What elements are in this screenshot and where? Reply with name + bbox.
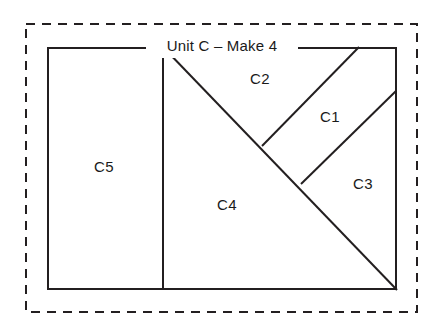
piece-label-c2: C2 <box>250 70 270 87</box>
unit-c-block-diagram: Unit C – Make 4 C1 C2 C3 C4 C5 <box>0 0 444 329</box>
piece-label-c5: C5 <box>94 158 114 175</box>
diagram-canvas: Unit C – Make 4 C1 C2 C3 C4 C5 <box>0 0 444 329</box>
piece-label-c1: C1 <box>320 108 340 125</box>
piece-label-c4: C4 <box>217 196 237 213</box>
piece-label-c3: C3 <box>353 175 373 192</box>
unit-title: Unit C – Make 4 <box>167 37 278 54</box>
